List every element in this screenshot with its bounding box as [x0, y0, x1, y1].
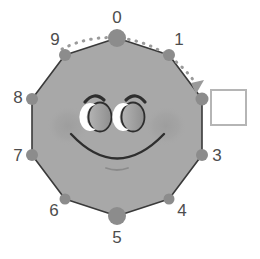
node-0[interactable]	[108, 29, 126, 47]
node-1[interactable]	[163, 49, 175, 61]
node-label-1: 1	[174, 30, 183, 49]
node-label-9: 9	[50, 30, 59, 49]
node-3[interactable]	[196, 149, 208, 161]
node-8[interactable]	[26, 93, 38, 105]
node-label-8: 8	[13, 88, 22, 107]
decagon-face-svg: 0 1 3 4 5 6 7 8 9	[0, 0, 260, 259]
node-2[interactable]	[196, 93, 209, 106]
node-5[interactable]	[108, 207, 126, 225]
node-9[interactable]	[59, 49, 71, 61]
right-cheek-blush	[145, 106, 187, 146]
node-label-0: 0	[112, 8, 121, 27]
node-label-3: 3	[212, 146, 221, 165]
state-box[interactable]	[211, 90, 246, 125]
right-eye	[112, 103, 144, 132]
node-label-5: 5	[112, 228, 121, 247]
node-4[interactable]	[164, 194, 175, 205]
node-6[interactable]	[60, 194, 71, 205]
node-label-6: 6	[49, 201, 58, 220]
node-label-4: 4	[177, 201, 186, 220]
node-label-7: 7	[13, 146, 22, 165]
diagram-canvas: 0 1 3 4 5 6 7 8 9	[0, 0, 260, 259]
left-eye	[79, 103, 111, 132]
node-7[interactable]	[26, 149, 38, 161]
